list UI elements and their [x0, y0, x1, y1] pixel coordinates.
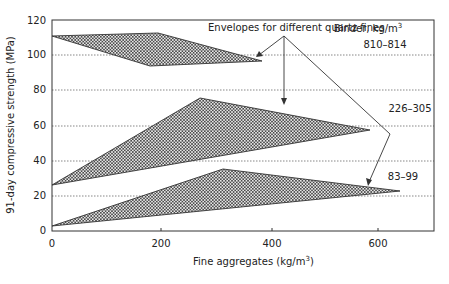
label-226-305: 226–305: [388, 103, 431, 114]
svg-text:0: 0: [40, 225, 46, 236]
y-tick-labels: 0 20 40 60 80 100 120: [27, 15, 46, 236]
svg-text:200: 200: [151, 238, 170, 249]
annotation-arrows: [256, 36, 390, 186]
svg-text:100: 100: [27, 49, 46, 60]
svg-text:60: 60: [33, 120, 46, 131]
y-axis-title: 91-day compressive strength (MPa): [5, 36, 16, 214]
svg-text:120: 120: [27, 15, 46, 26]
envelope-226-305: [52, 98, 370, 185]
x-tick-labels: 0 200 400 600: [49, 238, 388, 249]
label-810-814: 810–814: [363, 39, 406, 50]
label-83-99: 83–99: [388, 171, 418, 182]
envelope-83-99: [52, 169, 400, 226]
compressive-strength-chart: 0 20 40 60 80 100 120 0 200 400 600 91-d…: [0, 0, 449, 284]
svg-text:40: 40: [33, 155, 46, 166]
svg-text:80: 80: [33, 84, 46, 95]
svg-text:20: 20: [33, 190, 46, 201]
x-axis-title: Fine aggregates (kg/m3): [193, 255, 314, 267]
svg-text:0: 0: [49, 238, 55, 249]
svg-text:600: 600: [368, 238, 387, 249]
envelope-810-814: [52, 33, 262, 66]
envelopes-annotation: Envelopes for different quartz fines: [208, 22, 384, 33]
svg-text:400: 400: [262, 238, 281, 249]
